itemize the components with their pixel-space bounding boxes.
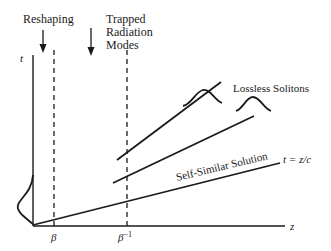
lossless-solitons-label: Lossless Solitons [233,82,309,94]
reshaping-arrow-icon [40,30,47,53]
initial-pulse-curve [18,175,33,224]
trapped-label-line1: Trapped [106,12,146,26]
diagram-canvas: Reshaping Trapped Radiation Modes t z β … [0,0,331,251]
soliton-pulse-upper [183,90,222,106]
trapped-label-line3: Modes [106,38,139,52]
self-similar-line [33,163,280,225]
z-axis-label: z [289,220,295,232]
trapped-label-line2: Radiation [106,25,153,39]
beta-tick-label: β [50,231,57,243]
trapped-modes-arrow-icon [88,28,95,56]
beta-inverse-tick-label: β−1 [117,230,132,243]
soliton-line-upper [117,82,221,160]
reshaping-label: Reshaping [23,12,74,26]
soliton-pulse-right [236,97,271,111]
t-axis-label: t [20,52,24,64]
light-line-label: t = z/c [283,153,311,165]
